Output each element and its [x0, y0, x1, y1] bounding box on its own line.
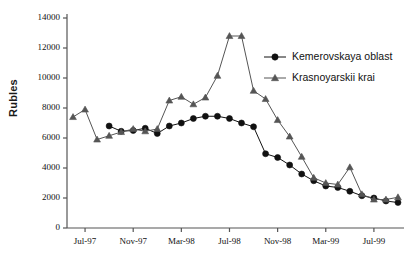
data-point-circle-marker	[287, 162, 293, 168]
y-axis-tick-label: 12000	[18, 42, 60, 52]
data-point-triangle-marker	[346, 164, 353, 170]
chart-plot-area	[0, 0, 415, 269]
data-point-circle-marker	[263, 151, 269, 157]
y-axis-tick-label: 10000	[18, 72, 60, 82]
x-axis-tick-label: Jul-99	[344, 236, 404, 246]
data-point-circle-marker	[299, 171, 305, 177]
chart-legend-markers	[264, 54, 286, 81]
data-point-triangle-marker	[214, 72, 221, 78]
data-point-circle-marker	[251, 124, 257, 130]
y-axis-tick-label: 0	[18, 222, 60, 232]
data-point-circle-marker	[239, 120, 245, 126]
data-point-triangle-marker	[70, 114, 77, 120]
data-point-circle-marker	[106, 123, 112, 129]
y-axis-tick-label: 6000	[18, 132, 60, 142]
data-point-triangle-marker	[202, 94, 209, 100]
data-point-circle-marker	[226, 116, 232, 122]
data-point-triangle-marker	[154, 126, 161, 132]
data-point-circle-marker	[178, 120, 184, 126]
legend-label-1: Kemerovskaya oblast	[292, 50, 392, 62]
data-point-triangle-marker	[178, 93, 185, 99]
y-axis-tick-label: 4000	[18, 162, 60, 172]
data-point-circle-marker	[190, 116, 196, 122]
data-point-triangle-marker	[395, 194, 402, 200]
y-axis-tick-label: 8000	[18, 102, 60, 112]
data-point-triangle-marker	[262, 96, 269, 102]
data-point-triangle-marker	[310, 174, 317, 180]
data-point-triangle-marker	[82, 106, 89, 112]
data-point-triangle-marker	[274, 117, 281, 123]
data-point-circle-marker	[272, 54, 278, 60]
data-point-circle-marker	[214, 113, 220, 119]
chart-axes	[63, 14, 404, 232]
y-axis-tick-label: 14000	[18, 12, 60, 22]
data-point-circle-marker	[275, 155, 281, 161]
data-point-circle-marker	[166, 123, 172, 129]
data-point-triangle-marker	[250, 87, 257, 93]
data-point-circle-marker	[395, 200, 401, 206]
legend-label-2: Krasnoyarskii krai	[292, 71, 375, 83]
data-point-triangle-marker	[298, 153, 305, 159]
data-point-triangle-marker	[322, 180, 329, 186]
data-point-triangle-marker	[190, 101, 197, 107]
data-point-circle-marker	[347, 188, 353, 194]
data-point-circle-marker	[202, 113, 208, 119]
chart-series-1	[106, 113, 401, 205]
y-axis-tick-label: 2000	[18, 192, 60, 202]
chart-container: Rubles 02000400060008000100001200014000 …	[0, 0, 415, 269]
